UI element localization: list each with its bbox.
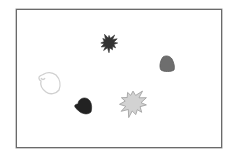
outline-blob-shape [39,73,60,94]
dark-star-shape [101,34,118,53]
dark-blob-shape [75,98,92,114]
light-star-shape [120,91,147,118]
shape-canvas [0,0,240,156]
gray-blob-shape [160,56,174,72]
